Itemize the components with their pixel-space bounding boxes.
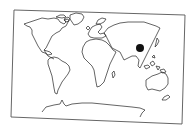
location-marker: [136, 44, 144, 52]
world-map: [0, 0, 194, 127]
